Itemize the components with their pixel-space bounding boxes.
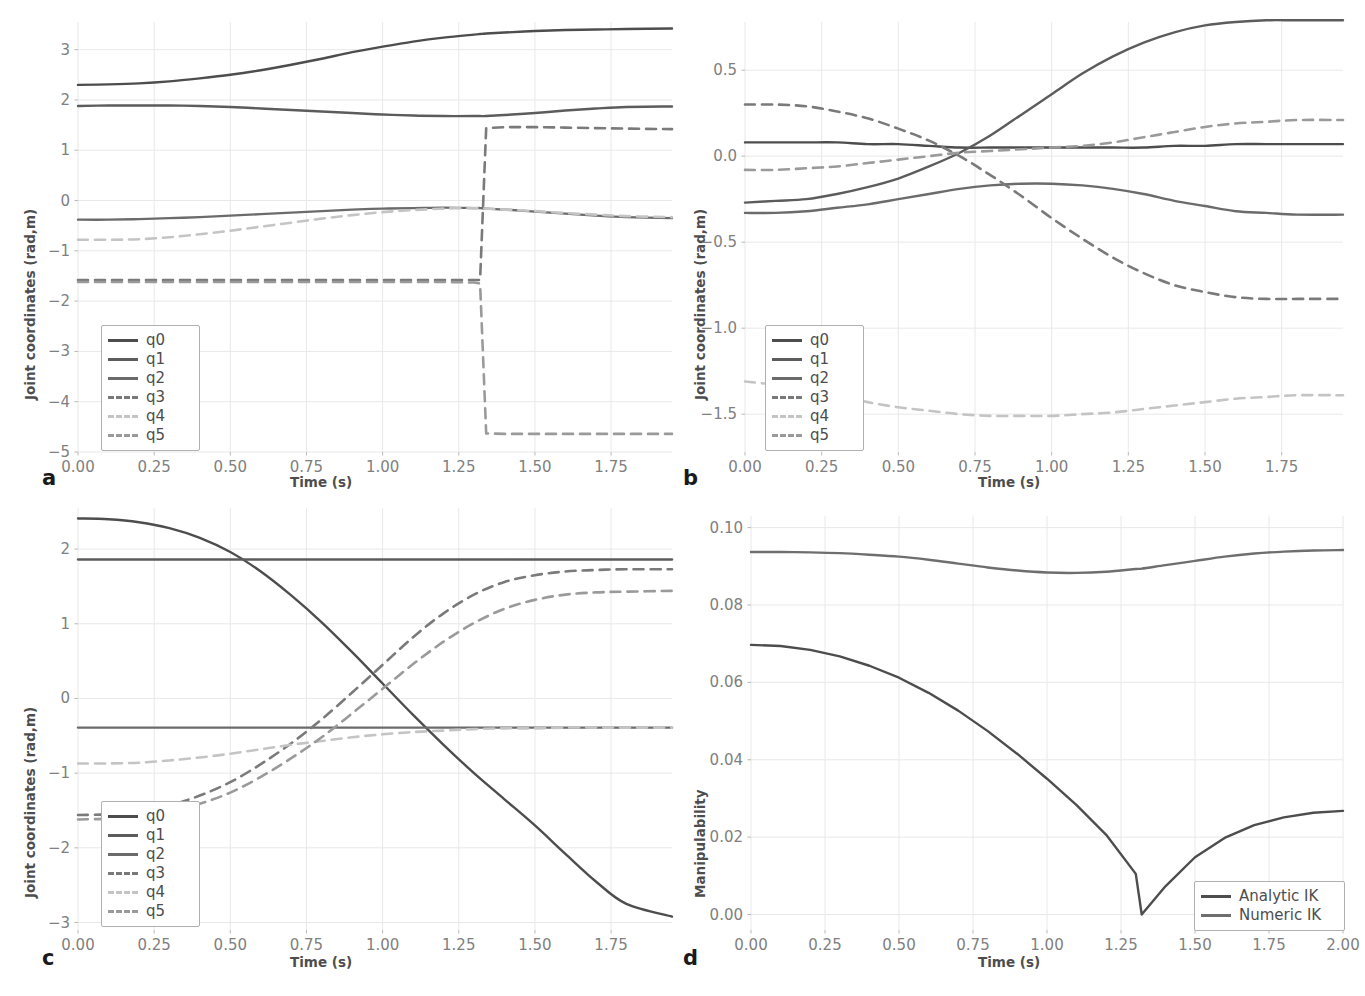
legend-swatch-q1	[108, 358, 138, 361]
legend-swatch-q2	[772, 377, 802, 380]
panel-b-xlabel: Time (s)	[978, 474, 1040, 490]
legend-item: q1	[108, 350, 192, 369]
series-line-q2	[745, 183, 1343, 214]
y-tick-label: 0.02	[683, 828, 743, 846]
x-tick-label: 1.00	[1030, 936, 1063, 954]
x-tick-label: 0.50	[882, 458, 915, 476]
y-tick-label: 1	[0, 141, 70, 159]
legend-swatch-q5	[108, 434, 138, 437]
legend-swatch-q1	[772, 358, 802, 361]
panel-d-xlabel: Time (s)	[978, 954, 1040, 970]
legend-item: q3	[772, 388, 856, 407]
panel-c-label: c	[42, 946, 54, 970]
legend-swatch-numeric-ik	[1201, 914, 1231, 917]
y-tick-label: −2	[0, 292, 70, 310]
legend-item: q3	[108, 864, 192, 883]
legend-label: q0	[146, 809, 165, 824]
legend-label: q4	[146, 885, 165, 900]
x-tick-label: 1.25	[1104, 936, 1137, 954]
panel-c-legend: q0q1q2q3q4q5	[101, 801, 200, 927]
y-tick-label: 0.04	[683, 751, 743, 769]
y-tick-label: −4	[0, 393, 70, 411]
y-tick-label: 2	[0, 91, 70, 109]
y-tick-label: 0.08	[683, 596, 743, 614]
x-tick-label: 1.50	[1188, 458, 1221, 476]
legend-item: q0	[108, 331, 192, 350]
legend-swatch-q2	[108, 377, 138, 380]
panel-b-legend: q0q1q2q3q4q5	[765, 325, 864, 451]
y-tick-label: −2	[0, 839, 70, 857]
legend-item: q5	[108, 426, 192, 445]
legend-item: Numeric IK	[1201, 906, 1337, 925]
y-tick-label: 0	[0, 689, 70, 707]
x-tick-label: 1.50	[1178, 936, 1211, 954]
x-tick-label: 1.75	[594, 936, 627, 954]
x-tick-label: 0.75	[290, 458, 323, 476]
legend-item: q1	[772, 350, 856, 369]
legend-label: q1	[810, 352, 829, 367]
x-tick-label: 0.25	[805, 458, 838, 476]
x-tick-label: 0.00	[734, 936, 767, 954]
panel-c-ylabel: Joint coordinates (rad,m)	[22, 707, 38, 898]
legend-swatch-analytic-ik	[1201, 895, 1231, 898]
legend-swatch-q3	[108, 396, 138, 399]
legend-label: q5	[146, 904, 165, 919]
legend-item: q2	[108, 369, 192, 388]
y-tick-label: 0.10	[683, 519, 743, 537]
y-tick-label: 3	[0, 41, 70, 59]
legend-label: q1	[146, 352, 165, 367]
legend-label: q3	[810, 390, 829, 405]
legend-item: q0	[108, 807, 192, 826]
series-line-q0	[745, 142, 1343, 147]
legend-swatch-q0	[108, 339, 138, 342]
legend-label: q2	[146, 371, 165, 386]
y-tick-label: −0.5	[683, 233, 737, 251]
series-line-q4	[78, 728, 672, 764]
y-tick-label: −1.5	[683, 405, 737, 423]
legend-item: q5	[108, 902, 192, 921]
legend-label: q5	[810, 428, 829, 443]
x-tick-label: 0.25	[808, 936, 841, 954]
series-line-q4	[78, 208, 672, 240]
x-tick-label: 1.50	[518, 458, 551, 476]
panel-a: Joint coordinates (rad,m) Time (s) a q0q…	[0, 0, 683, 498]
legend-label: q4	[146, 409, 165, 424]
legend-swatch-q4	[772, 415, 802, 418]
y-tick-label: −3	[0, 914, 70, 932]
y-tick-label: −3	[0, 342, 70, 360]
legend-item: q4	[772, 407, 856, 426]
x-tick-label: 0.50	[214, 936, 247, 954]
x-tick-label: 0.75	[956, 936, 989, 954]
legend-swatch-q4	[108, 415, 138, 418]
y-tick-label: 0.06	[683, 673, 743, 691]
legend-label: q3	[146, 390, 165, 405]
legend-label: q1	[146, 828, 165, 843]
series-line-q1	[78, 105, 672, 116]
panel-c-xlabel: Time (s)	[290, 954, 352, 970]
legend-item: q0	[772, 331, 856, 350]
x-tick-label: 0.50	[882, 936, 915, 954]
x-tick-label: 1.75	[1265, 458, 1298, 476]
x-tick-label: 2.00	[1326, 936, 1359, 954]
x-tick-label: 0.00	[728, 458, 761, 476]
legend-swatch-q0	[108, 815, 138, 818]
legend-item: q2	[108, 845, 192, 864]
x-tick-label: 1.00	[1035, 458, 1068, 476]
legend-item: q1	[108, 826, 192, 845]
legend-label: q5	[146, 428, 165, 443]
y-tick-label: −1.0	[683, 319, 737, 337]
legend-item: q5	[772, 426, 856, 445]
y-tick-label: 0.00	[683, 906, 743, 924]
panel-d-label: d	[683, 946, 698, 970]
legend-swatch-q0	[772, 339, 802, 342]
legend-item: q2	[772, 369, 856, 388]
x-tick-label: 1.25	[442, 936, 475, 954]
figure-root: Joint coordinates (rad,m) Time (s) a q0q…	[0, 0, 1365, 996]
legend-label: q3	[146, 866, 165, 881]
series-line-q5	[78, 591, 672, 820]
panel-d-legend: Analytic IKNumeric IK	[1194, 881, 1345, 931]
series-line-q0	[78, 29, 672, 85]
legend-item: q4	[108, 883, 192, 902]
panel-b: Joint coordinates (rad,m) Time (s) b q0q…	[683, 0, 1365, 498]
panel-a-legend: q0q1q2q3q4q5	[101, 325, 200, 451]
